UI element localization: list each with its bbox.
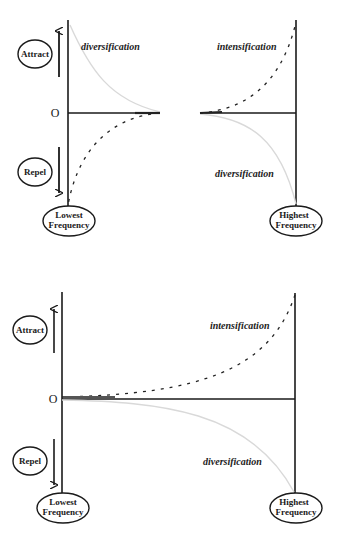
region-label-top-right: intensification xyxy=(210,320,270,331)
region-label-top-left: diversification xyxy=(81,41,140,52)
attract-repel-frequency-diagram: O Attract Repel Lowest Frequency Highest… xyxy=(0,0,343,544)
attract-label: Attract xyxy=(21,49,49,59)
highest-frequency-label-line1: Highest xyxy=(279,497,309,507)
diversification-curve-top-left xyxy=(70,25,160,112)
region-label-bottom-right: diversification xyxy=(215,168,274,179)
region-label-bottom-right: diversification xyxy=(203,456,262,467)
repel-label: Repel xyxy=(24,167,46,177)
repel-label: Repel xyxy=(19,456,41,466)
bottom-panel: O Attract Repel Lowest Frequency Highest… xyxy=(13,292,322,523)
highest-frequency-label-line2: Frequency xyxy=(276,220,317,230)
lowest-frequency-label-line1: Lowest xyxy=(55,210,83,220)
intensification-curve xyxy=(62,295,295,397)
region-label-top-right: intensification xyxy=(217,41,277,52)
highest-frequency-label-line2: Frequency xyxy=(276,507,317,517)
intensification-curve-top-right xyxy=(200,22,296,113)
origin-label: O xyxy=(51,106,60,120)
top-panel: O Attract Repel Lowest Frequency Highest… xyxy=(18,20,322,236)
diversification-curve-bottom xyxy=(62,400,294,492)
lowest-frequency-label-line1: Lowest xyxy=(49,497,77,507)
attract-label: Attract xyxy=(16,325,44,335)
diversification-curve-bottom-right xyxy=(200,114,296,204)
repel-curve-bottom-left xyxy=(68,113,160,205)
lowest-frequency-label-line2: Frequency xyxy=(43,507,84,517)
highest-frequency-label-line1: Highest xyxy=(279,210,309,220)
lowest-frequency-label-line2: Frequency xyxy=(49,220,90,230)
curve-join-right xyxy=(200,112,222,113)
origin-label: O xyxy=(49,392,58,406)
